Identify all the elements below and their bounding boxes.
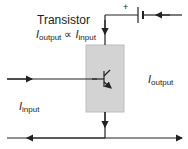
battery-plus-sign: + (123, 1, 128, 13)
output-wire-top (105, 15, 182, 45)
proportionality-relation: Ioutput ∝ Iinput (36, 28, 96, 44)
transistor-title: Transistor (37, 14, 90, 26)
input-current-label: Iinput (19, 100, 39, 116)
output-current-label: Ioutput (148, 73, 173, 89)
battery-icon (138, 7, 154, 23)
